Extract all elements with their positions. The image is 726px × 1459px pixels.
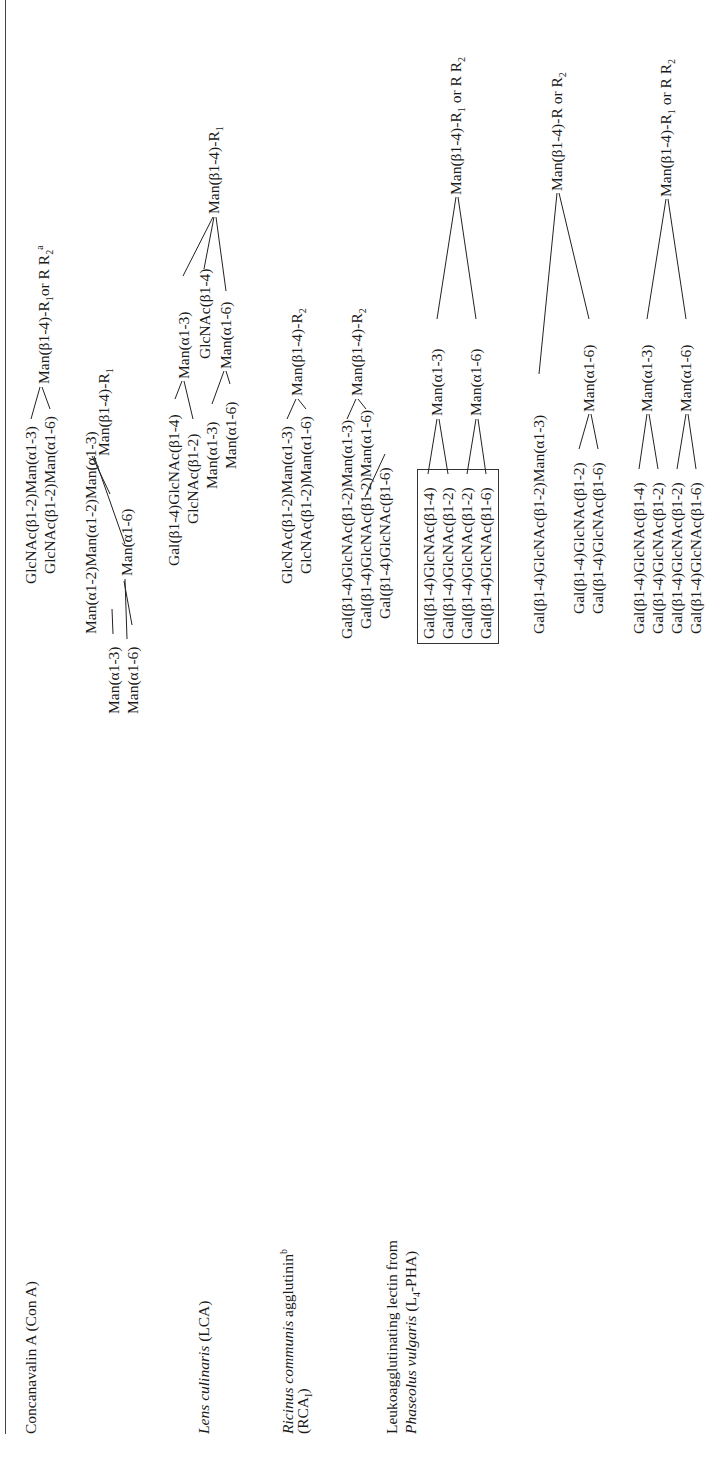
rotated-table-page: Concanavalin A (Con A) Lens culinaris (L… (0, 0, 726, 1459)
branch-connector-lines (0, 0, 726, 1459)
